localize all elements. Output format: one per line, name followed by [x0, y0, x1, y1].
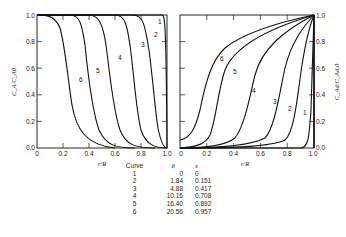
right-x-tick-labels: 0 0.2 0.4 0.6 0.8 1.0 [179, 150, 318, 157]
svg-text:0: 0 [179, 150, 183, 157]
right-y-axis-label: C_Ad/C_Ad,0 [333, 63, 340, 100]
svg-text:0: 0 [35, 150, 39, 157]
svg-text:1.0: 1.0 [316, 12, 325, 19]
left-x-tick-labels: 0 0.2 0.4 0.6 0.8 1.0 [35, 150, 172, 157]
curve-parameter-table: Curve θ x 100 21.840.151 34.880.417 410.… [118, 162, 225, 215]
table-row: 516.400.892 [118, 200, 225, 208]
right-x-axis-label: r/R [241, 160, 249, 167]
table-row: 100 [118, 170, 225, 178]
left-curves [37, 15, 167, 148]
right-plot: 1.0 0.8 0.6 0.4 0.2 0.0 0 0.2 0.4 0.6 0.… [179, 12, 340, 168]
left-curve-3 [37, 15, 167, 148]
header-theta: θ [151, 162, 195, 170]
svg-text:0.2: 0.2 [202, 150, 211, 157]
header-x: x [195, 162, 225, 170]
svg-text:0.2: 0.2 [26, 118, 35, 125]
svg-text:0.4: 0.4 [316, 91, 325, 98]
left-curve-5 [37, 15, 135, 148]
right-curve-labels: 1 2 3 4 5 6 [220, 55, 307, 116]
svg-text:5: 5 [233, 68, 237, 75]
svg-text:0.4: 0.4 [26, 91, 35, 98]
svg-text:6: 6 [79, 76, 83, 83]
svg-text:0.8: 0.8 [136, 150, 145, 157]
svg-text:4: 4 [118, 54, 122, 61]
left-y-ticks [37, 15, 167, 148]
svg-text:0.8: 0.8 [283, 150, 292, 157]
right-curve-6 [180, 15, 314, 140]
left-x-axis-label: r/R [98, 160, 106, 167]
svg-text:6: 6 [220, 55, 224, 62]
left-curve-1 [37, 15, 167, 148]
svg-text:1.0: 1.0 [26, 12, 35, 19]
svg-text:2: 2 [288, 105, 292, 112]
table-row: 410.160.708 [118, 192, 225, 200]
left-curve-2 [37, 15, 167, 148]
left-y-axis-label: C_A/C_A0 [10, 67, 17, 96]
svg-text:0.8: 0.8 [26, 38, 35, 45]
svg-text:3: 3 [141, 41, 145, 48]
svg-text:1: 1 [158, 18, 162, 25]
right-curves [180, 15, 314, 148]
table-row: 620.560.957 [118, 208, 225, 216]
left-curve-4 [37, 15, 155, 148]
svg-text:0.2: 0.2 [58, 150, 67, 157]
header-curve: Curve [118, 162, 151, 170]
svg-text:1.0: 1.0 [162, 150, 171, 157]
left-curve-6 [37, 15, 115, 148]
svg-text:0.4: 0.4 [84, 150, 93, 157]
svg-text:0.2: 0.2 [316, 118, 325, 125]
svg-text:0.6: 0.6 [110, 150, 119, 157]
svg-text:0.8: 0.8 [316, 38, 325, 45]
table-header: Curve θ x [118, 162, 225, 170]
svg-text:1.0: 1.0 [308, 150, 317, 157]
table-row: 34.880.417 [118, 185, 225, 193]
left-plot-frame [37, 15, 167, 148]
svg-text:0.6: 0.6 [26, 65, 35, 72]
right-y-tick-labels: 1.0 0.8 0.6 0.4 0.2 0.0 [316, 12, 325, 152]
svg-text:0.0: 0.0 [26, 144, 35, 151]
svg-text:0.6: 0.6 [316, 65, 325, 72]
svg-text:2: 2 [154, 31, 158, 38]
table-row: 21.840.151 [118, 177, 225, 185]
left-plot: 1.0 0.8 0.6 0.4 0.2 0.0 0 0.2 0.4 0.6 0.… [10, 12, 172, 168]
svg-text:0.4: 0.4 [229, 150, 238, 157]
svg-text:3: 3 [273, 98, 277, 105]
svg-text:5: 5 [96, 67, 100, 74]
svg-text:0.6: 0.6 [256, 150, 265, 157]
svg-text:4: 4 [252, 87, 256, 94]
svg-text:1: 1 [303, 109, 307, 116]
left-y-tick-labels: 1.0 0.8 0.6 0.4 0.2 0.0 [26, 12, 35, 152]
